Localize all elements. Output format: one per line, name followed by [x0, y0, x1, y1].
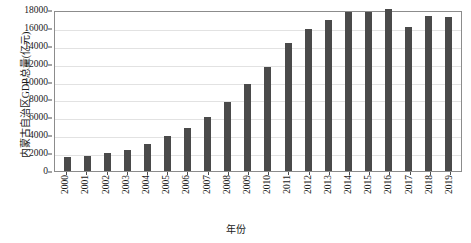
x-axis-tick-label: 2018 — [425, 175, 435, 194]
x-slot: 2019 — [440, 172, 460, 218]
x-slot: 2011 — [278, 172, 298, 218]
y-axis-tick-label: 12000 — [24, 60, 48, 70]
x-slot: 2005 — [157, 172, 177, 218]
y-axis-tick-mark — [48, 154, 52, 155]
x-slot: 2000 — [56, 172, 76, 218]
y-axis-tick-label: 2000 — [29, 149, 48, 159]
bar-slot — [399, 12, 419, 171]
y-axis-tick-label: 14000 — [24, 42, 48, 52]
bar — [325, 20, 332, 171]
x-axis-tick-label: 2010 — [263, 175, 273, 194]
x-slot: 2013 — [319, 172, 339, 218]
y-axis-tick-mark — [48, 136, 52, 137]
x-slot: 2015 — [359, 172, 379, 218]
x-slot: 2004 — [137, 172, 157, 218]
y-axis-tick-mark — [48, 46, 52, 47]
x-slot: 2001 — [76, 172, 96, 218]
bar — [164, 136, 171, 171]
bar — [84, 156, 91, 171]
bar — [285, 43, 292, 171]
bar-slot — [157, 12, 177, 171]
x-axis-tick-label: 2001 — [82, 175, 92, 194]
bar — [224, 102, 231, 171]
x-axis-tick-label: 2015 — [364, 175, 374, 194]
y-axis-tick-mark — [48, 11, 52, 12]
x-slot: 2002 — [96, 172, 116, 218]
bar-slot — [358, 12, 378, 171]
y-axis-tick-label: 18000 — [24, 6, 48, 16]
x-axis-tick-label: 2006 — [183, 175, 193, 194]
x-slot: 2014 — [339, 172, 359, 218]
bar-slot — [258, 12, 278, 171]
bar-slot — [439, 12, 459, 171]
x-slot: 2016 — [379, 172, 399, 218]
bar-series — [55, 12, 461, 171]
x-axis-tick-labels: 2000200120022003200420052006200720082009… — [54, 172, 462, 218]
x-slot: 2006 — [177, 172, 197, 218]
bar-slot — [278, 12, 298, 171]
bar — [385, 9, 392, 171]
x-axis-tick-label: 2002 — [102, 175, 112, 194]
bar — [64, 157, 71, 171]
bar — [264, 67, 271, 171]
x-axis-tick-label: 2019 — [445, 175, 455, 194]
y-axis-tick-mark — [48, 172, 52, 173]
y-axis-tick-label: 6000 — [29, 114, 48, 124]
x-axis-tick-label: 2008 — [223, 175, 233, 194]
x-axis-tick-label: 2009 — [243, 175, 253, 194]
x-slot: 2018 — [420, 172, 440, 218]
bar-slot — [57, 12, 77, 171]
bar — [365, 12, 372, 171]
x-axis-title: 年份 — [0, 224, 471, 236]
bar — [204, 117, 211, 171]
bar-slot — [298, 12, 318, 171]
y-axis-tick-mark — [48, 28, 52, 29]
bar-slot — [218, 12, 238, 171]
x-axis-tick-label: 2004 — [142, 175, 152, 194]
bar-slot — [338, 12, 358, 171]
y-axis-tick-mark — [48, 64, 52, 65]
bar — [104, 153, 111, 171]
x-slot: 2010 — [258, 172, 278, 218]
x-axis-tick-label: 2007 — [203, 175, 213, 194]
bar — [305, 29, 312, 171]
y-axis-tick-mark — [48, 82, 52, 83]
x-slot: 2012 — [298, 172, 318, 218]
x-axis-tick-label: 2011 — [284, 175, 294, 194]
x-slot: 2003 — [117, 172, 137, 218]
bar — [345, 12, 352, 171]
bar-slot — [178, 12, 198, 171]
x-slot: 2009 — [238, 172, 258, 218]
x-axis-tick-label: 2013 — [324, 175, 334, 194]
x-axis-tick-label: 2000 — [61, 175, 71, 194]
bar-slot — [137, 12, 157, 171]
bar — [405, 27, 412, 171]
bar-slot — [379, 12, 399, 171]
y-axis-tick-label: 4000 — [29, 131, 48, 141]
bar-slot — [77, 12, 97, 171]
bar — [445, 17, 452, 171]
y-axis-tick-label: 10000 — [24, 78, 48, 88]
gdp-bar-chart-figure: 内蒙古自治区GDP总量(亿元) 020004000600080001000012… — [0, 0, 471, 243]
bar — [124, 150, 131, 171]
bar-slot — [198, 12, 218, 171]
bar-slot — [238, 12, 258, 171]
y-axis-tick-label: 8000 — [29, 96, 48, 106]
bar-slot — [318, 12, 338, 171]
x-axis-tick-label: 2016 — [385, 175, 395, 194]
plot-area — [54, 11, 462, 172]
x-slot: 2007 — [197, 172, 217, 218]
y-axis-tick-mark — [48, 118, 52, 119]
x-axis-tick-label: 2017 — [405, 175, 415, 194]
bar — [425, 16, 432, 171]
y-axis-tick-labels: 0200040006000800010000120001400016000180… — [0, 0, 52, 243]
x-axis-tick-label: 2005 — [162, 175, 172, 194]
bar-slot — [419, 12, 439, 171]
bar-slot — [117, 12, 137, 171]
x-axis-tick-label: 2014 — [344, 175, 354, 194]
x-slot: 2008 — [218, 172, 238, 218]
x-axis-tick-label: 2003 — [122, 175, 132, 194]
bar — [184, 128, 191, 171]
x-axis-tick-label: 2012 — [304, 175, 314, 194]
bar-slot — [97, 12, 117, 171]
